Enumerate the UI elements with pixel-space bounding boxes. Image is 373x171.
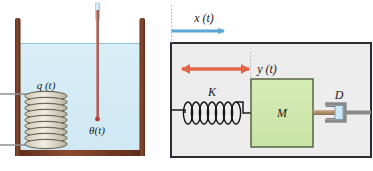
temperature-output-label: θ(t)	[89, 124, 105, 137]
heater-input-label: q (t)	[37, 79, 56, 92]
figure-root: q (t) θ(t)	[0, 0, 373, 171]
damper-right-rod	[344, 111, 371, 115]
x-input-label: x (t)	[193, 11, 214, 25]
mechanical-system-panel: x (t) y (t) K M	[165, 0, 373, 171]
y-output-label: y (t)	[256, 62, 277, 76]
mass-label: M	[276, 106, 288, 120]
thermometer-bulb	[95, 117, 100, 122]
tank-bottom-wall	[15, 150, 145, 156]
tank-left-wall	[15, 18, 21, 156]
tank-right-wall	[140, 18, 146, 156]
thermometer-stem	[96, 10, 99, 118]
heating-coil	[25, 91, 67, 148]
damper-piston	[335, 106, 343, 120]
damper-rod	[313, 110, 337, 115]
damper-label: D	[334, 88, 344, 102]
thermal-system-panel: q (t) θ(t)	[0, 0, 170, 171]
spring-label: K	[207, 85, 217, 99]
mechanical-system-svg: x (t) y (t) K M	[165, 0, 373, 171]
thermal-system-svg: q (t) θ(t)	[0, 0, 170, 171]
